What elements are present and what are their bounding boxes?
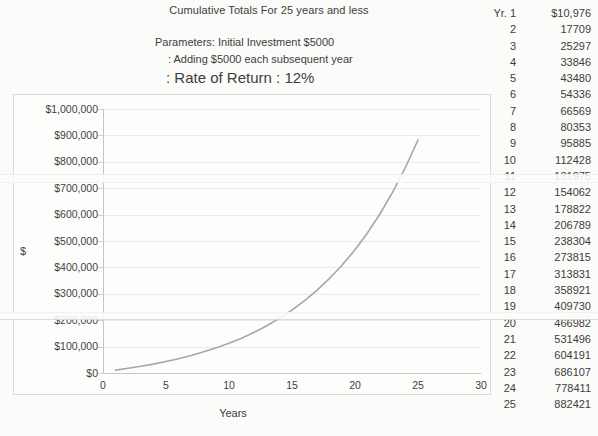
table-value-cell: 80353 — [516, 119, 593, 135]
table-value-cell: 273815 — [516, 249, 593, 265]
table-row: 766569 — [480, 103, 593, 119]
table-row: 23686107 — [480, 364, 593, 380]
table-value-cell: 206789 — [516, 217, 593, 233]
table-row: 995885 — [480, 135, 593, 151]
table-value-cell: 112428 — [516, 152, 593, 168]
table-value-cell: 358921 — [516, 282, 593, 298]
y-axis-tick-label: $900,000 — [14, 129, 98, 141]
y-axis-tick — [98, 373, 103, 374]
table-row: 14206789 — [480, 217, 593, 233]
x-axis-tick-label: 15 — [275, 379, 309, 391]
table-year-cell: 2 — [480, 21, 516, 37]
gridline — [103, 373, 481, 374]
parameter-rate-of-return: : Rate of Return : 12% — [166, 69, 353, 86]
table-year-cell: 25 — [480, 396, 516, 412]
x-axis-tick-label: 20 — [338, 379, 372, 391]
y-axis-tick-label: $300,000 — [14, 287, 98, 299]
scanned-chart-page: Cumulative Totals For 25 years and less … — [0, 0, 598, 436]
y-axis-tick-label: $400,000 — [14, 261, 98, 273]
table-row: 10112428 — [480, 152, 593, 168]
table-row: 21531496 — [480, 331, 593, 347]
table-row: 25882421 — [480, 396, 593, 412]
y-axis-tick-label: $700,000 — [14, 182, 98, 194]
table-row: 22604191 — [480, 347, 593, 363]
table-value-cell: 33846 — [516, 54, 593, 70]
table-value-cell: 604191 — [516, 347, 593, 363]
x-axis-title: Years — [170, 407, 296, 419]
table-value-cell: 178822 — [516, 201, 593, 217]
table-value-cell: 238304 — [516, 233, 593, 249]
y-axis-title: $ — [20, 245, 26, 257]
parameters-block: Parameters: Initial Investment $5000 : A… — [155, 34, 353, 86]
table-row: 13178822 — [480, 201, 593, 217]
table-value-cell: $10,976 — [516, 5, 593, 21]
table-value-cell: 66569 — [516, 103, 593, 119]
table-row: 18358921 — [480, 282, 593, 298]
table-value-cell: 43480 — [516, 70, 593, 86]
x-axis-tick-label: 25 — [401, 379, 435, 391]
x-axis-tick-label: 0 — [86, 379, 120, 391]
table-year-cell: Yr. 1 — [480, 5, 516, 21]
table-value-cell: 17709 — [516, 21, 593, 37]
table-row: 880353 — [480, 119, 593, 135]
table-value-cell: 25297 — [516, 38, 593, 54]
table-value-cell: 154062 — [516, 184, 593, 200]
x-axis-tick-label: 5 — [149, 379, 183, 391]
y-axis-tick-label: $800,000 — [14, 155, 98, 167]
cumulative-total-curve — [103, 109, 481, 373]
table-value-cell: 54336 — [516, 86, 593, 102]
y-axis-tick-label: $1,000,000 — [14, 103, 98, 115]
table-value-cell: 686107 — [516, 364, 593, 380]
table-value-cell: 95885 — [516, 135, 593, 151]
table-row: 15238304 — [480, 233, 593, 249]
table-row: 16273815 — [480, 249, 593, 265]
y-axis-tick-label: $600,000 — [14, 208, 98, 220]
chart-title: Cumulative Totals For 25 years and less — [40, 4, 498, 16]
chart-frame: $0$100,000$200,000$300,000$400,000$500,0… — [13, 94, 491, 395]
year-value-table: Yr. 1$10,9762177093252974338465434806543… — [480, 5, 593, 412]
table-row: 654336 — [480, 86, 593, 102]
table-value-cell: 531496 — [516, 331, 593, 347]
table-row: 543480 — [480, 70, 593, 86]
table-row: 325297 — [480, 38, 593, 54]
table-row: 17313831 — [480, 266, 593, 282]
table-row: Yr. 1$10,976 — [480, 5, 593, 21]
table-year-cell: 4 — [480, 54, 516, 70]
scan-crease-artifact-lower — [0, 312, 598, 320]
y-axis-tick-label: $0 — [14, 367, 98, 379]
table-row: 433846 — [480, 54, 593, 70]
table-value-cell: 778411 — [516, 380, 593, 396]
table-year-cell: 3 — [480, 38, 516, 54]
y-axis-tick-label: $500,000 — [14, 235, 98, 247]
table-value-cell: 882421 — [516, 396, 593, 412]
x-axis-tick-label: 30 — [464, 379, 498, 391]
y-axis-tick-label: $100,000 — [14, 340, 98, 352]
table-row: 12154062 — [480, 184, 593, 200]
x-axis-tick-label: 10 — [212, 379, 246, 391]
table-row: 217709 — [480, 21, 593, 37]
parameter-annual-addition: : Adding $5000 each subsequent year — [168, 51, 353, 68]
table-year-cell: 5 — [480, 70, 516, 86]
table-value-cell: 313831 — [516, 266, 593, 282]
scan-crease-artifact-upper — [0, 174, 598, 183]
parameter-initial-investment: Parameters: Initial Investment $5000 — [155, 34, 353, 51]
